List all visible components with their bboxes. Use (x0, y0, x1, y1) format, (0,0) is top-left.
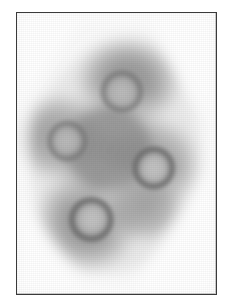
micrograph-svg (17, 13, 216, 294)
ring-right-core (140, 154, 168, 182)
ring-top-core (108, 78, 136, 106)
figure-root (0, 0, 231, 306)
micrograph-image (17, 13, 216, 294)
ring-bottom-core (76, 205, 106, 235)
ring-left-core (55, 128, 81, 154)
micrograph-frame (16, 12, 217, 295)
